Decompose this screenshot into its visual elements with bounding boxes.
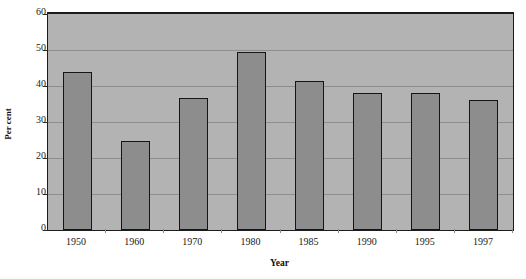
x-axis-tick-mark xyxy=(454,229,455,233)
y-axis-title: Per cent xyxy=(0,88,16,158)
x-axis-tick-mark xyxy=(163,229,164,233)
y-axis-tick-label: 30 xyxy=(22,115,46,125)
x-axis-tick-mark xyxy=(280,229,281,233)
x-axis-tick-mark xyxy=(338,229,339,233)
x-axis-tick-label: 1970 xyxy=(163,236,221,248)
bar xyxy=(237,52,266,230)
y-axis-tick-label: 40 xyxy=(22,79,46,89)
x-axis-tick-mark xyxy=(512,229,513,233)
x-axis-title: Year xyxy=(47,258,512,268)
bar xyxy=(353,93,382,230)
plot-area xyxy=(47,12,514,231)
y-axis-title-label: Per cent xyxy=(3,89,13,159)
x-axis-tick-label: 1995 xyxy=(396,236,454,248)
x-axis-tick-mark xyxy=(396,229,397,233)
x-axis-tick-label: 1960 xyxy=(105,236,163,248)
y-axis-tick-label: 0 xyxy=(22,223,46,233)
x-axis-tick-label: 1980 xyxy=(221,236,279,248)
x-axis-tick-label: 1997 xyxy=(454,236,512,248)
y-axis-tick-labels: 0102030405060 xyxy=(22,0,46,279)
bar-series xyxy=(48,14,513,230)
x-axis-tick-label: 1950 xyxy=(47,236,105,248)
bar-chart: Per cent 0102030405060 19501960197019801… xyxy=(0,0,526,279)
y-axis-tick-label: 10 xyxy=(22,187,46,197)
x-axis-tick-labels: 19501960197019801985199019951997 xyxy=(47,236,512,252)
bar xyxy=(63,72,92,230)
bar xyxy=(121,141,150,230)
x-axis-tick-mark xyxy=(105,229,106,233)
bar xyxy=(411,93,440,230)
y-axis-tick-label: 50 xyxy=(22,43,46,53)
x-axis-tick-mark xyxy=(221,229,222,233)
bar xyxy=(295,81,324,230)
bar xyxy=(469,100,498,230)
x-axis-tick-label: 1985 xyxy=(280,236,338,248)
y-axis-tick-label: 60 xyxy=(22,7,46,17)
y-axis-tick-label: 20 xyxy=(22,151,46,161)
bar xyxy=(179,98,208,230)
x-axis-tick-label: 1990 xyxy=(338,236,396,248)
y-axis-tick-mark xyxy=(43,230,48,231)
